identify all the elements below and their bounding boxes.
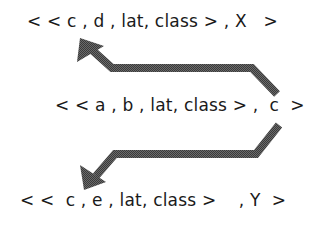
arrow-up-left-icon — [77, 38, 277, 94]
arrows — [0, 0, 328, 227]
arrow-down-left-icon — [80, 125, 279, 190]
